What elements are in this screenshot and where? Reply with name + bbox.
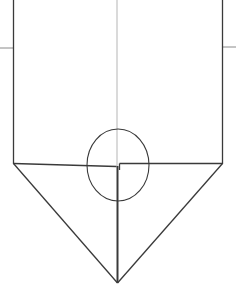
diagram-canvas [0, 0, 236, 301]
right-diagonal-line [118, 164, 223, 284]
left-diagonal-line [14, 164, 118, 284]
diagram-svg [0, 0, 236, 301]
left-base-line [14, 164, 117, 167]
